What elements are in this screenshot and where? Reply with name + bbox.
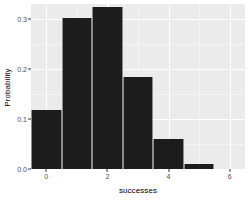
bar <box>62 18 93 170</box>
bar <box>153 139 184 169</box>
x-axis-tick-label: 0 <box>44 173 48 180</box>
gridline-vertical-minor <box>199 4 200 169</box>
x-axis-tick-mark <box>168 169 169 172</box>
x-axis-tick-label: 6 <box>228 173 232 180</box>
y-axis-tick-label: 0.0 <box>17 166 27 173</box>
bar <box>123 77 154 170</box>
x-axis-tick-label: 2 <box>105 173 109 180</box>
x-axis-tick-mark <box>46 169 47 172</box>
probability-histogram-chart: Probability 0.00.10.20.3 0246 successes <box>0 0 250 204</box>
y-axis-tick-group: 0.00.10.20.3 <box>12 0 31 204</box>
plot-panel <box>31 4 245 169</box>
x-axis-tick-mark <box>229 169 230 172</box>
x-axis-tick-label: 4 <box>167 173 171 180</box>
y-axis-tick-label: 0.2 <box>17 66 27 73</box>
y-axis-title-label: Probability <box>3 68 12 106</box>
x-axis-tick-group: 0246 <box>31 169 245 185</box>
bar <box>31 110 62 169</box>
y-axis-tick-label: 0.1 <box>17 116 27 123</box>
y-axis-tick-label: 0.3 <box>17 16 27 23</box>
bar <box>92 7 123 169</box>
x-axis-title: successes <box>31 186 245 195</box>
gridline-vertical-major <box>230 4 231 169</box>
x-axis-tick-mark <box>107 169 108 172</box>
